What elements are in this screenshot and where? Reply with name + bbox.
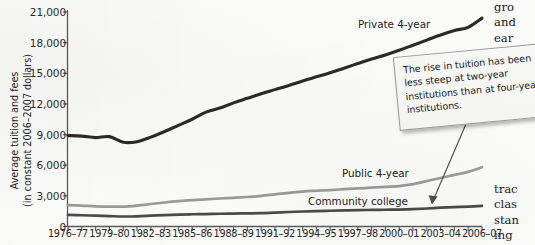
x-axis-tick-label: 1985–86 <box>172 228 212 239</box>
y-axis-title: Average tuition and fees (in constant 20… <box>9 36 34 226</box>
callout-note-text: The rise in tuition has been less steep … <box>402 50 535 116</box>
x-axis-tick-label: 1997–98 <box>338 228 378 239</box>
x-axis-tick-label: 1994–95 <box>296 228 336 239</box>
series-label-public-4-year: Public 4-year <box>342 167 409 179</box>
x-axis-tick-label: 1979–80 <box>89 228 129 239</box>
series-label-private-4-year: Private 4-year <box>358 18 430 30</box>
x-axis-tick-label: 1976–77 <box>48 228 88 239</box>
series-line-public-4-year <box>68 167 482 206</box>
margin-text-bottom: trac clas stan ing <box>494 182 519 244</box>
x-axis-tick-label: 2000–01 <box>379 228 419 239</box>
callout-note-box: The rise in tuition has been less steep … <box>393 43 535 131</box>
x-axis-tick-label: 2003–04 <box>421 228 461 239</box>
series-label-community-college: Community college <box>308 195 408 207</box>
chart-page: 03,0006,0009,00012,00015,00018,00021,000… <box>0 0 535 245</box>
x-axis-tick-label: 1982–83 <box>131 228 171 239</box>
tuition-line-chart: 03,0006,0009,00012,00015,00018,00021,000… <box>0 0 492 245</box>
x-axis-tick-labels: 1976–771979–801982–831985–861988–891991–… <box>0 228 492 245</box>
x-axis-tick-label: 1991–92 <box>255 228 295 239</box>
y-axis-tick-label: 21,000 <box>6 6 66 18</box>
callout-arrow <box>429 124 466 205</box>
x-axis-tick-label: 1988–89 <box>214 228 254 239</box>
